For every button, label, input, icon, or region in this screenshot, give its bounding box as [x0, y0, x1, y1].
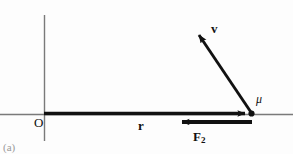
particle-label: μ — [256, 93, 262, 105]
panel-caption: (a) — [3, 142, 15, 153]
origin-label: O — [34, 116, 43, 129]
force-vector-symbol: F — [193, 129, 201, 144]
diagram-canvas — [0, 0, 293, 154]
particle-dot — [248, 110, 254, 116]
velocity-vector-label: v — [211, 22, 218, 35]
physics-vector-diagram: O v r F2 μ (a) — [0, 0, 293, 154]
position-vector-label: r — [138, 119, 144, 132]
force-vector-label: F2 — [193, 130, 205, 145]
vector-v — [199, 35, 252, 113]
force-vector-subscript: 2 — [201, 135, 206, 145]
